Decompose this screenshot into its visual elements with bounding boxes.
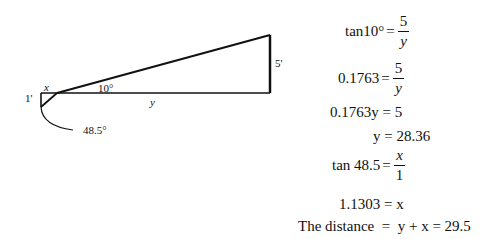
eq5-denominator: 1 bbox=[394, 168, 406, 183]
eq1-denominator: y bbox=[398, 34, 409, 49]
label-y: y bbox=[150, 97, 155, 108]
equation-distance: The distance = y + x = 29.5 bbox=[298, 219, 471, 234]
eq1-lhs: tan10° bbox=[345, 24, 384, 39]
eq1-fraction: 5 y bbox=[398, 14, 410, 49]
eq5-numerator: x bbox=[394, 148, 405, 163]
eq5-lhs: tan 48.5 bbox=[332, 158, 380, 173]
equation-x-value: 1.1303 = x bbox=[339, 197, 404, 212]
triangle-drawing bbox=[0, 0, 300, 239]
label-angle-10: 10° bbox=[98, 83, 113, 94]
eq2-equals: = bbox=[381, 71, 389, 86]
equation-0-1763y: 0.1763y = 5 bbox=[330, 105, 402, 120]
equations-panel: tan10° = 5 y 0.1763 = 5 y 0.1763y = 5 y … bbox=[300, 0, 496, 239]
equation-y-value: y = 28.36 bbox=[373, 129, 430, 144]
eq2-denominator: y bbox=[393, 81, 404, 96]
eq1-numerator: 5 bbox=[398, 14, 410, 29]
eq2-fraction: 5 y bbox=[393, 61, 405, 96]
fraction-bar bbox=[394, 165, 406, 166]
label-one-foot: 1' bbox=[25, 93, 32, 104]
equation-0-1763-frac: 0.1763 = 5 y bbox=[338, 61, 404, 96]
eq2-lhs: 0.1763 bbox=[338, 71, 379, 86]
label-x: x bbox=[44, 82, 49, 93]
label-angle-48-5: 48.5° bbox=[83, 125, 107, 136]
eq1-equals: = bbox=[386, 24, 394, 39]
fraction-bar bbox=[398, 31, 410, 32]
triangle-diagram: x 10° y 1' 5' 48.5° bbox=[0, 0, 300, 239]
eq5-fraction: x 1 bbox=[394, 148, 406, 183]
eq5-equals: = bbox=[382, 158, 390, 173]
eq2-numerator: 5 bbox=[393, 61, 405, 76]
equation-tan10: tan10° = 5 y bbox=[345, 14, 409, 49]
equation-tan48-5: tan 48.5 = x 1 bbox=[332, 148, 405, 183]
fraction-bar bbox=[393, 78, 405, 79]
label-five-feet: 5' bbox=[275, 58, 282, 69]
